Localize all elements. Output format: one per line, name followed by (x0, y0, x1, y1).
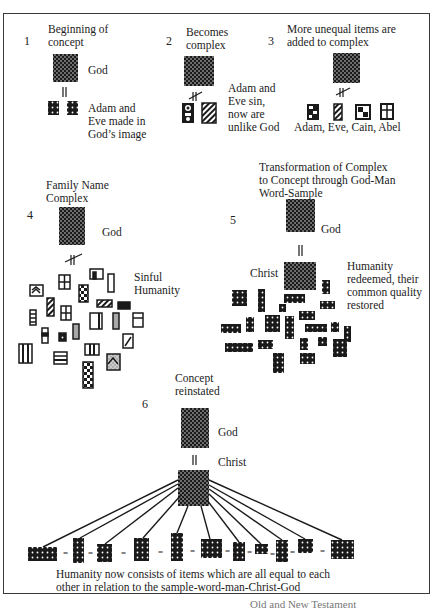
panel-3-item-labels: Adam, Eve, Cain, Abel (294, 121, 401, 134)
christ-block (178, 470, 209, 506)
god-block (333, 53, 360, 83)
eve-sinful-block (202, 103, 216, 123)
panel-4-title: Complex (46, 192, 88, 205)
equal-sign-icon (193, 455, 196, 465)
panel-4-shapes (19, 207, 143, 388)
panel-1-title: concept (48, 36, 84, 49)
panel-5-side-label: redeemed, their (347, 273, 419, 286)
panel-6-shapes (28, 408, 354, 563)
panel-1-bottom-label: Adam and (88, 102, 136, 115)
redeemed-humanity-items (221, 280, 351, 373)
equal-sign: = (158, 546, 163, 559)
god-block (184, 56, 214, 86)
panel-3-number: 3 (268, 34, 274, 49)
panel-4-title: Family Name (46, 179, 109, 192)
eve-item (334, 104, 342, 120)
cropped-caption: Old and New Testament (0, 598, 435, 610)
panel-3-title: More unequal items are (287, 23, 396, 36)
panel-3-title: added to complex (287, 36, 369, 49)
panel-6-caption: other in relation to the sample-word-man… (56, 581, 300, 594)
panel-5-title: Word-Sample (259, 187, 323, 200)
christ-block (284, 262, 316, 290)
panel-1-god-label: God (88, 64, 108, 77)
adam-item (307, 104, 319, 120)
panel-1-title: Beginning of (48, 23, 108, 36)
adam-block (48, 101, 59, 115)
not-equal-icon (65, 254, 82, 265)
equal-sign-icon (63, 87, 66, 97)
panel-2-side-label: Eve sin, (228, 95, 265, 108)
god-block (286, 199, 315, 232)
equal-sign: = (88, 547, 93, 560)
panel-4-side-label: Sinful (134, 271, 162, 284)
panel-5-side-label: Humanity (347, 260, 393, 273)
adam-sinful-block (182, 103, 194, 123)
equal-sign: = (320, 545, 325, 558)
panel-5-side-label: restored (347, 299, 384, 312)
panel-4-number: 4 (27, 208, 33, 223)
panel-6-god-label: God (218, 426, 238, 439)
panel-2-title: Becomes (186, 26, 228, 39)
cain-item (356, 105, 370, 119)
not-equal-icon (189, 92, 202, 101)
panel-1-bottom-label: God’s image (88, 128, 146, 141)
panel-6-number: 6 (142, 397, 148, 412)
panel-2-side-label: unlike God (228, 121, 279, 134)
panel-2-side-label: Adam and (228, 82, 276, 95)
panel-5-god-label: God (321, 223, 341, 236)
panel-1-bottom-label: Eve made in (88, 115, 145, 128)
panel-5-number: 5 (230, 213, 236, 228)
panel-4-side-label: Humanity (134, 284, 180, 297)
not-equal-icon (336, 88, 350, 97)
panel-5-title: to Concept through God-Man (259, 174, 395, 187)
god-block (53, 54, 78, 82)
abel-item (381, 104, 393, 119)
panel-6-title: Concept (175, 372, 213, 385)
panel-6-christ-label: Christ (218, 456, 246, 469)
panel-2-number: 2 (166, 34, 172, 49)
sinful-humanity-items (19, 269, 143, 388)
equal-sign: = (225, 545, 230, 558)
equal-sign: = (270, 548, 275, 561)
cropped-caption-text: Old and New Testament (250, 598, 356, 610)
equal-sign-icon (299, 245, 302, 256)
panel-2-side-label: now are (228, 108, 265, 121)
equal-sign: = (290, 546, 295, 559)
panel-1-shapes (48, 54, 78, 115)
panel-2-shapes (182, 56, 216, 123)
god-block (181, 408, 209, 448)
panel-5-christ-label: Christ (250, 267, 278, 280)
eve-block (67, 101, 78, 115)
panel-6-caption: Humanity now consists of items which are… (56, 568, 330, 581)
panel-5-side-label: common quality (347, 286, 422, 299)
panel-4-god-label: God (102, 226, 122, 239)
god-block (59, 207, 85, 245)
panel-5-title: Transformation of Complex (259, 161, 388, 174)
equal-sign: = (247, 546, 252, 559)
panel-2-title: complex (186, 39, 226, 52)
panel-6-title: reinstated (175, 385, 220, 398)
equal-sign: = (63, 547, 68, 560)
panel-3-shapes (307, 53, 393, 120)
panel-1-number: 1 (24, 34, 30, 49)
equal-sign: = (190, 545, 195, 558)
equal-sign: = (121, 547, 126, 560)
